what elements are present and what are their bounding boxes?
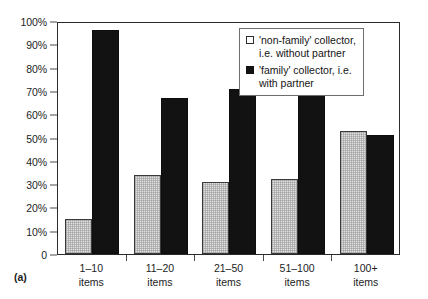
bar-group: [58, 23, 127, 254]
y-axis-tick-label: 30%: [26, 179, 47, 191]
y-axis-tick-mark: [50, 138, 57, 139]
y-axis-tick-label: 40%: [26, 156, 47, 168]
bar-group: [127, 23, 196, 254]
y-axis-tick-mark: [50, 255, 57, 256]
x-axis-labels: 1–10items11–20items21–50items51–100items…: [57, 262, 400, 296]
legend-item-label: 'family' collector, i.e. with partner: [259, 64, 352, 89]
y-axis-tick-mark: [50, 68, 57, 69]
y-axis-tick-mark: [50, 45, 57, 46]
figure-container: 010%20%30%40%50%60%70%80%90%100% 1–10ite…: [0, 0, 428, 299]
chart-legend: 'non-family' collector, i.e. without par…: [239, 28, 364, 96]
y-axis-tick-mark: [50, 185, 57, 186]
bar-family: [161, 98, 188, 254]
dark-filled-square-icon: [246, 66, 254, 74]
bar-non-family: [340, 131, 367, 254]
x-axis-tick-label: 51–100items: [280, 262, 315, 289]
y-axis-tick-label: 80%: [26, 63, 47, 75]
bar-family: [92, 30, 119, 254]
legend-item-label: 'non-family' collector, i.e. without par…: [259, 34, 356, 59]
y-axis-tick-label: 60%: [26, 109, 47, 121]
x-axis-ticks: [57, 255, 400, 261]
legend-item-family: 'family' collector, i.e. with partner: [246, 64, 356, 89]
legend-item-non-family: 'non-family' collector, i.e. without par…: [246, 34, 356, 59]
x-axis-tick-mark: [126, 255, 127, 261]
y-axis-tick-label: 90%: [26, 39, 47, 51]
y-axis-tick-label: 0: [41, 249, 47, 261]
y-axis-tick-label: 10%: [26, 226, 47, 238]
bar-non-family: [202, 182, 229, 254]
y-axis-tick-mark: [50, 22, 57, 23]
bar-family: [367, 135, 394, 254]
y-axis-tick-label: 20%: [26, 202, 47, 214]
bar-family: [229, 89, 256, 254]
y-axis-tick-label: 50%: [26, 133, 47, 145]
x-axis-tick-label: 11–20items: [146, 262, 174, 289]
y-axis-tick-label: 70%: [26, 86, 47, 98]
x-axis-tick-mark: [263, 255, 264, 261]
x-axis-tick-mark: [331, 255, 332, 261]
bar-non-family: [271, 179, 298, 254]
y-axis-tick-mark: [50, 115, 57, 116]
figure-label: (a): [14, 271, 27, 283]
y-axis-tick-label: 100%: [21, 16, 47, 28]
bar-non-family: [134, 175, 161, 254]
y-axis: 010%20%30%40%50%60%70%80%90%100%: [0, 22, 57, 255]
bar-family: [298, 91, 325, 254]
y-axis-tick-mark: [50, 231, 57, 232]
y-axis-tick-mark: [50, 161, 57, 162]
y-axis-tick-mark: [50, 91, 57, 92]
x-axis-tick-label: 100+items: [353, 262, 378, 289]
x-axis-tick-mark: [194, 255, 195, 261]
x-axis-tick-label: 21–50items: [214, 262, 243, 289]
x-axis-tick-label: 1–10items: [79, 262, 104, 289]
light-open-square-icon: [246, 36, 254, 44]
y-axis-tick-mark: [50, 208, 57, 209]
bar-non-family: [65, 219, 92, 254]
